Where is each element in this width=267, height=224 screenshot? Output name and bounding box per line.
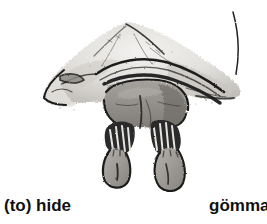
caption-row: (to) hide gömma (0, 192, 267, 224)
blanket-hanging-cord (233, 12, 238, 74)
left-ankle-cuff (105, 122, 135, 155)
caption-english: (to) hide (4, 194, 71, 218)
child-right-leg-and-foot (151, 120, 185, 191)
child-left-leg-and-foot (103, 122, 135, 188)
dictionary-entry-card: (to) hide gömma (0, 0, 267, 224)
caption-swedish: gömma (209, 194, 267, 218)
illustration-child-hiding-under-blanket (0, 0, 267, 192)
